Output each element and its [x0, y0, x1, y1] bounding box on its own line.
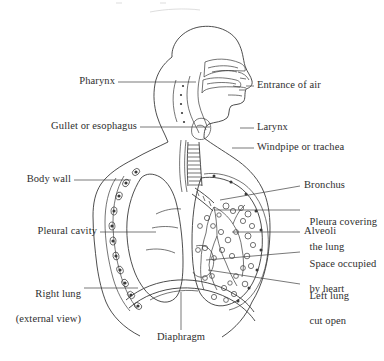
head-neck-outline	[154, 26, 252, 142]
label-right-lung-external: Right lung (external view)	[0, 275, 81, 325]
label-windpipe-or-trachea: Windpipe or trachea	[257, 141, 344, 154]
label-diaphragm: Diaphragm	[145, 331, 217, 344]
label-gullet-or-esophagus: Gullet or esophagus	[0, 120, 137, 133]
leader-bronchus	[220, 186, 300, 200]
label-left-lung-line1: Left lung	[309, 290, 349, 301]
alveoli-clusters	[196, 203, 256, 302]
label-bronchus: Bronchus	[304, 179, 345, 192]
label-left-lung-cut-open: Left lung cut open	[304, 277, 349, 327]
nasal-oral-cavity	[173, 59, 246, 139]
label-left-lung-line2: cut open	[309, 315, 346, 326]
label-body-wall: Body wall	[0, 173, 71, 186]
label-space-heart-line1: Space occupied	[309, 258, 376, 269]
rib-cage-body-wall	[105, 167, 143, 311]
right-lung-external	[127, 174, 183, 302]
label-alveoli: Alveoli	[304, 225, 336, 238]
top-crop-remnant	[116, 3, 200, 12]
label-right-lung-line2: (external view)	[16, 313, 81, 324]
leader-left-lung	[208, 270, 300, 284]
label-pharynx: Pharynx	[0, 75, 115, 88]
label-pleural-cavity: Pleural cavity	[0, 225, 97, 238]
leader-space-heart	[206, 252, 300, 260]
label-right-lung-line1: Right lung	[35, 288, 81, 299]
diaphragm	[126, 280, 255, 321]
label-entrance-of-air: Entrance of air	[257, 79, 321, 92]
label-larynx: Larynx	[257, 121, 288, 134]
